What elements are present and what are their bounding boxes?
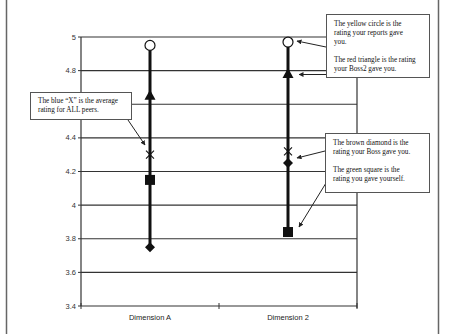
callout-text-line: The green square is the: [333, 166, 425, 175]
callout-text-line: you.: [334, 38, 425, 47]
callout-paragraph: The green square is therating you gave y…: [333, 166, 425, 184]
callout-paragraph: The blue “X” is the averagerating for AL…: [38, 97, 127, 115]
callout-paragraph: The yellow circle is therating your repo…: [334, 20, 425, 47]
y-tick-label: 5: [72, 33, 76, 42]
x-category-label: Dimension A: [129, 313, 171, 322]
callout-text-line: your Boss2 gave you.: [334, 65, 425, 74]
square-marker-icon: [145, 175, 155, 185]
callout-reports-boss2: The yellow circle is therating your repo…: [326, 14, 430, 78]
arrow-to-reports-circle: [297, 41, 326, 47]
arrow-to-peers-x: [128, 120, 145, 145]
y-tick-label: 3.8: [66, 234, 76, 243]
diamond-marker-icon: [145, 242, 155, 252]
callout-peers-average: The blue “X” is the averagerating for AL…: [30, 92, 132, 120]
callout-text-line: rating your Boss gave you.: [333, 148, 425, 157]
callout-text-line: The red triangle is the rating: [334, 56, 425, 65]
y-tick-label: 4.8: [66, 66, 76, 75]
diamond-marker-icon: [283, 158, 293, 168]
arrow-to-boss-diamond: [297, 151, 325, 158]
callout-text-line: rating for ALL peers.: [38, 106, 127, 115]
y-tick-label: 4.2: [66, 167, 76, 176]
triangle-marker-icon: [283, 68, 294, 78]
y-tick-label: 4: [72, 201, 76, 210]
chart-figure: 54.84.64.44.243.83.63.4Dimension ADimens…: [0, 0, 455, 334]
callout-text-line: rating you gave yourself.: [333, 175, 425, 184]
callout-text-line: The yellow circle is the: [334, 20, 425, 29]
y-tick-label: 4.4: [66, 133, 76, 142]
callout-text-line: rating your reports gave: [334, 29, 425, 38]
callout-paragraph: The brown diamond is therating your Boss…: [333, 139, 425, 157]
callout-text-line: The blue “X” is the average: [38, 97, 127, 106]
x-category-label: Dimension 2: [267, 313, 309, 322]
square-marker-icon: [283, 227, 293, 237]
callout-paragraph: The red triangle is the ratingyour Boss2…: [334, 56, 425, 74]
callout-text-line: The brown diamond is the: [333, 139, 425, 148]
triangle-marker-icon: [145, 90, 156, 100]
callout-boss-self: The brown diamond is therating your Boss…: [325, 133, 430, 193]
y-tick-label: 3.6: [66, 268, 76, 277]
y-tick-label: 3.4: [66, 302, 76, 311]
circle-marker-icon: [145, 40, 155, 50]
circle-marker-icon: [283, 37, 293, 47]
